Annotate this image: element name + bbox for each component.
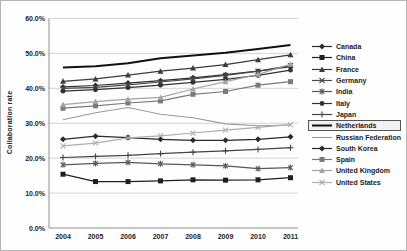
square-marker-icon: [223, 178, 228, 183]
chart-legend: CanadaChinaFranceGermanyIndiaItalyJapanN…: [311, 41, 401, 188]
india-legend-marker-icon: [311, 87, 333, 96]
x-tick-label: 2009: [218, 233, 234, 240]
legend-label-united-states: United States: [336, 179, 381, 186]
legend-item-canada: Canada: [311, 41, 401, 52]
square-marker-icon: [93, 179, 98, 184]
plus-marker-icon: [288, 145, 294, 151]
square-marker-icon: [191, 92, 196, 97]
x-tick-label: 2010: [250, 233, 266, 240]
collaboration-rate-chart: Collaboration rate 0.0%10.0%20.0%30.0%40…: [0, 0, 407, 251]
square-marker-icon: [256, 83, 261, 88]
y-tick-label: 10.0%: [25, 190, 46, 197]
legend-item-germany: Germany: [311, 75, 401, 86]
diamond-marker-icon: [223, 137, 229, 143]
plot-svg: 0.0%10.0%20.0%30.0%40.0%50.0%60.0%200420…: [1, 1, 311, 251]
y-tick-label: 50.0%: [25, 50, 46, 57]
legend-item-russian-federation: Russian Federation: [311, 131, 401, 142]
legend-item-south-korea: South Korea: [311, 143, 401, 154]
japan-legend-marker-icon: [311, 110, 333, 119]
legend-item-japan: Japan: [311, 109, 401, 120]
canada-legend-marker-icon: [311, 42, 333, 51]
x-tick-label: 2006: [120, 233, 136, 240]
square-marker-icon: [288, 79, 293, 84]
circle-marker-icon: [191, 80, 196, 85]
plus-marker-icon: [255, 146, 261, 152]
x-tick-label: 2011: [283, 233, 298, 240]
y-tick-label: 20.0%: [25, 155, 46, 162]
circle-marker-icon: [126, 85, 131, 90]
square-marker-icon: [288, 175, 293, 180]
square-marker-icon: [191, 177, 196, 182]
china-legend-marker-icon: [311, 53, 333, 62]
x-tick-label: 2007: [153, 233, 169, 240]
circle-marker-icon: [158, 83, 163, 88]
legend-label-india: India: [336, 88, 352, 95]
plus-marker-icon: [60, 154, 66, 160]
plus-marker-icon: [125, 152, 131, 158]
y-tick-label: 40.0%: [25, 85, 46, 92]
legend-item-china: China: [311, 52, 401, 63]
plus-marker-icon: [190, 149, 196, 155]
legend-label-china: China: [336, 54, 355, 61]
series-india: [61, 159, 293, 171]
square-marker-icon: [158, 178, 163, 183]
south-korea-legend-marker-icon: [311, 144, 333, 153]
legend-item-italy: Italy: [311, 97, 401, 108]
series-china: [61, 172, 294, 184]
square-marker-icon: [126, 179, 131, 184]
legend-label-united-kingdom: United Kingdom: [336, 167, 390, 174]
diamond-marker-icon: [255, 136, 261, 142]
square-marker-icon: [223, 89, 228, 94]
legend-label-spain: Spain: [336, 156, 355, 163]
legend-label-south-korea: South Korea: [336, 145, 378, 152]
legend-item-netherlands: Netherlands: [308, 120, 401, 131]
circle-marker-icon: [288, 68, 293, 73]
legend-item-spain: Spain: [311, 154, 401, 165]
legend-item-india: India: [311, 86, 401, 97]
spain-legend-marker-icon: [311, 155, 333, 164]
plus-marker-icon: [158, 151, 164, 157]
legend-label-japan: Japan: [336, 111, 356, 118]
square-marker-icon: [61, 172, 66, 177]
legend-label-canada: Canada: [336, 43, 361, 50]
diamond-marker-icon: [93, 133, 99, 139]
y-tick-label: 60.0%: [25, 15, 46, 22]
italy-legend-marker-icon: [311, 99, 333, 108]
legend-label-italy: Italy: [336, 100, 350, 107]
plus-marker-icon: [223, 148, 229, 154]
y-tick-label: 0.0%: [29, 225, 46, 232]
x-tick-label: 2004: [55, 233, 71, 240]
x-tick-label: 2008: [185, 233, 201, 240]
legend-label-germany: Germany: [336, 77, 366, 84]
series-netherlands: [63, 45, 291, 67]
circle-marker-icon: [93, 87, 98, 92]
diamond-marker-icon: [190, 137, 196, 143]
netherlands-legend-marker-icon: [311, 121, 333, 130]
square-marker-icon: [256, 177, 261, 182]
germany-legend-marker-icon: [311, 76, 333, 85]
diamond-marker-icon: [288, 134, 294, 140]
legend-item-france: France: [311, 64, 401, 75]
united-states-legend-marker-icon: [311, 178, 333, 187]
legend-label-russian-federation: Russian Federation: [336, 134, 401, 141]
circle-marker-icon: [61, 89, 66, 94]
legend-label-france: France: [336, 66, 359, 73]
legend-item-united-states: United States: [311, 177, 401, 188]
united-kingdom-legend-marker-icon: [311, 166, 333, 175]
y-tick-label: 30.0%: [25, 120, 46, 127]
diamond-marker-icon: [60, 136, 66, 142]
france-legend-marker-icon: [311, 65, 333, 74]
legend-label-netherlands: Netherlands: [336, 122, 376, 129]
russian-federation-legend-marker-icon: [311, 133, 333, 142]
legend-item-united-kingdom: United Kingdom: [311, 165, 401, 176]
diamond-marker-icon: [190, 75, 196, 81]
x-tick-label: 2005: [88, 233, 104, 240]
